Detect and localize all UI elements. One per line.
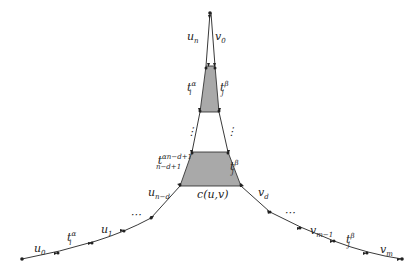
upper-shaded-region — [200, 66, 219, 112]
label-v-d: vd — [258, 186, 269, 201]
vertex-dots — [20, 11, 404, 261]
label-t-upper-right: tβj — [219, 80, 228, 97]
left-path — [22, 13, 210, 259]
dots-lower-right: ⋯ — [284, 206, 295, 219]
label-u-n-d: un−d — [148, 186, 170, 201]
label-c-uv: c(u,v) — [197, 188, 229, 201]
dots-right: ⋮ — [226, 125, 237, 138]
label-u-n: un — [187, 30, 199, 45]
label-v-0: v0 — [215, 30, 226, 45]
dots-lower-left: ⋯ — [130, 208, 141, 221]
label-t-i1: tαi — [67, 230, 76, 247]
right-path — [211, 13, 402, 259]
label-v-m: vm — [380, 243, 393, 258]
label-u-0: u0 — [34, 242, 46, 257]
label-t-upper-left: tαi — [187, 80, 196, 97]
label-u-1: u1 — [101, 223, 113, 238]
path-merge-diagram: un v0 tαi tβj ⋮ ⋮ tαn−d+1n−d+1 tβj c(u,v… — [0, 0, 418, 274]
label-v-m1: vm−1 — [310, 224, 333, 239]
dots-left: ⋮ — [186, 125, 197, 138]
